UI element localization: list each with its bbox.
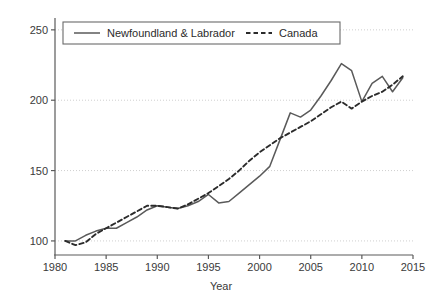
x-tick-label-1980: 1980	[43, 261, 67, 273]
x-tick-label-2010: 2010	[350, 261, 374, 273]
y-tick-label-150: 150	[30, 165, 48, 177]
legend-label-1: Canada	[279, 27, 318, 39]
chart-background	[0, 0, 441, 298]
chart-legend: Newfoundland & LabradorCanada	[63, 22, 340, 44]
x-tick-label-2000: 2000	[247, 261, 271, 273]
x-axis-title: Year	[210, 280, 233, 292]
x-tick-label-2005: 2005	[298, 261, 322, 273]
x-tick-label-1990: 1990	[145, 261, 169, 273]
legend-label-0: Newfoundland & Labrador	[107, 27, 235, 39]
x-tick-label-1995: 1995	[196, 261, 220, 273]
chart-container: 100150200250 198019851990199520002005201…	[0, 0, 441, 298]
y-tick-label-100: 100	[30, 235, 48, 247]
line-chart: 100150200250 198019851990199520002005201…	[0, 0, 441, 298]
y-tick-label-250: 250	[30, 24, 48, 36]
y-tick-label-200: 200	[30, 94, 48, 106]
x-tick-label-2015: 2015	[401, 261, 425, 273]
x-tick-label-1985: 1985	[94, 261, 118, 273]
